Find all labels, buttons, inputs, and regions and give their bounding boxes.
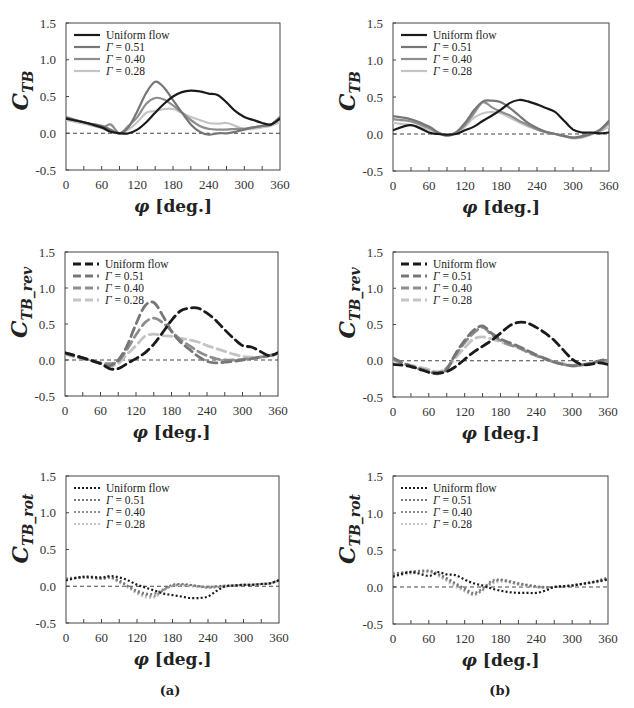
x-tick-label: 180 bbox=[491, 178, 511, 193]
y-tick-label: 1.0 bbox=[39, 281, 55, 296]
x-tick-label: 60 bbox=[95, 177, 108, 192]
x-tick-label: 180 bbox=[491, 404, 511, 419]
legend-label-uniform: Uniform flow bbox=[106, 482, 170, 494]
y-tick-label: -0.5 bbox=[35, 616, 56, 631]
x-tick-label: 120 bbox=[126, 403, 146, 418]
y-axis-label: CTB_rot bbox=[7, 493, 37, 563]
series-line-g040 bbox=[393, 102, 609, 138]
legend-label-g028: Γ = 0.28 bbox=[105, 518, 145, 530]
chart-panel-b-mid: 060120180240300360-0.50.00.51.01.5Unifor… bbox=[334, 245, 618, 444]
plot-frame bbox=[393, 252, 608, 397]
y-tick-label: -0.5 bbox=[362, 390, 383, 405]
y-tick-label: 1.5 bbox=[39, 245, 55, 260]
series-line-g040 bbox=[393, 571, 608, 594]
x-tick-label: 360 bbox=[269, 630, 289, 645]
y-tick-label: 0.5 bbox=[39, 317, 55, 332]
y-axis-label: CTB_rev bbox=[6, 266, 36, 338]
x-tick-label: 300 bbox=[562, 404, 582, 419]
y-tick-label: -0.5 bbox=[35, 163, 56, 178]
legend-label-uniform: Uniform flow bbox=[105, 258, 169, 270]
legend: Uniform flowΓ = 0.51Γ = 0.40Γ = 0.28 bbox=[74, 29, 170, 77]
chart-panel-a-bot: 060120180240300360-0.50.00.51.01.5Unifor… bbox=[7, 469, 289, 670]
legend-label-g040: Γ = 0.40 bbox=[105, 506, 145, 518]
series-line-uniform bbox=[66, 91, 280, 134]
legend-label-g051: Γ = 0.51 bbox=[432, 41, 472, 53]
x-axis-label: φ [deg.] bbox=[462, 650, 540, 670]
y-tick-label: -0.5 bbox=[362, 164, 383, 179]
x-tick-label: 360 bbox=[270, 177, 290, 192]
y-tick-label: 1.5 bbox=[367, 16, 383, 31]
figure-canvas: 060120180240300360-0.50.00.51.01.5Unifor… bbox=[0, 0, 634, 708]
legend-label-g028: Γ = 0.28 bbox=[432, 65, 472, 77]
x-tick-label: 180 bbox=[163, 177, 183, 192]
y-tick-label: 1.0 bbox=[367, 281, 383, 296]
x-tick-label: 300 bbox=[234, 630, 254, 645]
y-tick-label: -0.5 bbox=[34, 389, 55, 404]
x-tick-label: 240 bbox=[198, 630, 218, 645]
x-tick-label: 0 bbox=[390, 404, 397, 419]
chart-panel-b-bot: 060120180240300360-0.50.00.51.01.5Unifor… bbox=[334, 469, 618, 671]
y-tick-label: 0.0 bbox=[40, 579, 56, 594]
plot-frame bbox=[393, 476, 608, 624]
x-axis-label: φ [deg.] bbox=[462, 423, 540, 443]
x-tick-label: 60 bbox=[94, 403, 107, 418]
x-axis-label: φ [deg.] bbox=[462, 197, 540, 217]
x-tick-label: 240 bbox=[527, 178, 547, 193]
x-tick-label: 180 bbox=[163, 630, 183, 645]
y-tick-label: 1.5 bbox=[367, 469, 383, 484]
legend-label-g040: Γ = 0.40 bbox=[432, 506, 472, 518]
x-tick-label: 360 bbox=[598, 404, 618, 419]
legend-label-g051: Γ = 0.51 bbox=[105, 494, 145, 506]
y-axis-label: CTB bbox=[7, 71, 36, 111]
y-tick-label: 1.5 bbox=[367, 245, 383, 260]
y-tick-label: 1.0 bbox=[40, 505, 56, 520]
y-tick-label: 0.5 bbox=[40, 89, 56, 104]
x-tick-label: 60 bbox=[95, 630, 108, 645]
legend-label-g040: Γ = 0.40 bbox=[432, 53, 472, 65]
x-axis-label: φ [deg.] bbox=[133, 422, 211, 442]
plot-frame bbox=[66, 476, 279, 623]
y-tick-label: 1.5 bbox=[40, 16, 56, 31]
legend-label-g028: Γ = 0.28 bbox=[432, 294, 472, 306]
x-axis-label: φ [deg.] bbox=[134, 649, 212, 669]
y-tick-label: 1.5 bbox=[40, 469, 56, 484]
x-tick-label: 120 bbox=[455, 404, 475, 419]
x-tick-label: 120 bbox=[455, 631, 475, 646]
legend: Uniform flowΓ = 0.51Γ = 0.40Γ = 0.28 bbox=[401, 482, 497, 530]
legend: Uniform flowΓ = 0.51Γ = 0.40Γ = 0.28 bbox=[74, 482, 170, 530]
legend-label-uniform: Uniform flow bbox=[433, 258, 497, 270]
chart-panel-a-top: 060120180240300360-0.50.00.51.01.5Unifor… bbox=[7, 16, 290, 217]
y-tick-label: 0.5 bbox=[367, 543, 383, 558]
y-tick-label: 0.5 bbox=[40, 542, 56, 557]
x-tick-label: 0 bbox=[390, 178, 397, 193]
legend-label-g051: Γ = 0.51 bbox=[432, 494, 472, 506]
y-tick-label: 1.0 bbox=[367, 506, 383, 521]
legend-label-uniform: Uniform flow bbox=[433, 29, 497, 41]
x-tick-label: 60 bbox=[423, 178, 436, 193]
x-tick-label: 360 bbox=[598, 631, 618, 646]
y-tick-label: 0.0 bbox=[367, 127, 383, 142]
x-tick-label: 60 bbox=[422, 404, 435, 419]
x-tick-label: 240 bbox=[527, 404, 547, 419]
x-tick-label: 300 bbox=[563, 178, 583, 193]
y-axis-label: CTB bbox=[334, 71, 363, 111]
y-tick-label: 0.5 bbox=[367, 317, 383, 332]
legend-label-uniform: Uniform flow bbox=[433, 482, 497, 494]
x-tick-label: 0 bbox=[63, 177, 70, 192]
x-tick-label: 240 bbox=[199, 177, 219, 192]
legend-label-g028: Γ = 0.28 bbox=[104, 294, 144, 306]
series-line-uniform bbox=[393, 572, 608, 593]
legend-label-g040: Γ = 0.40 bbox=[104, 282, 144, 294]
x-tick-label: 180 bbox=[491, 631, 511, 646]
x-tick-label: 0 bbox=[63, 630, 70, 645]
legend-label-g051: Γ = 0.51 bbox=[105, 41, 145, 53]
legend-label-uniform: Uniform flow bbox=[106, 29, 170, 41]
x-tick-label: 0 bbox=[390, 631, 397, 646]
chart-panel-a-mid: 060120180240300360-0.50.00.51.01.5Unifor… bbox=[6, 245, 288, 443]
legend-label-g040: Γ = 0.40 bbox=[432, 282, 472, 294]
x-tick-label: 240 bbox=[197, 403, 217, 418]
plot-frame bbox=[393, 23, 609, 171]
legend-label-g051: Γ = 0.51 bbox=[432, 270, 472, 282]
panel-label-b: (b) bbox=[489, 683, 510, 698]
plot-frame bbox=[65, 252, 278, 396]
